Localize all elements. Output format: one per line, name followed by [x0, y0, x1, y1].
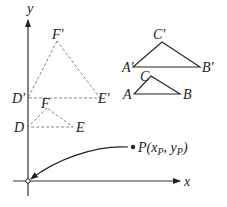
- label-p: P(xP, yP): [137, 140, 188, 157]
- label-d: D: [13, 120, 24, 135]
- triangle-abc-prime: [133, 42, 200, 67]
- triangle-def-prime: [28, 41, 100, 98]
- label-b-prime: B': [202, 60, 215, 75]
- label-e-prime: E': [97, 91, 111, 106]
- origin-point: [26, 179, 30, 183]
- label-c: C: [140, 69, 150, 84]
- label-a: A: [122, 87, 132, 102]
- x-axis-label: x: [183, 174, 191, 189]
- triangle-def: [28, 108, 73, 127]
- diagram-canvas: y x F' D' E' F D E C' A' B' C A B P(xP, …: [0, 0, 227, 207]
- label-e: E: [75, 120, 85, 135]
- label-c-prime: C': [153, 27, 166, 42]
- label-f: F: [40, 96, 50, 111]
- label-d-prime: D': [11, 91, 26, 106]
- label-b: B: [183, 87, 192, 102]
- label-a-prime: A': [121, 60, 135, 75]
- point-p: [131, 145, 135, 149]
- trajectory-curve: [31, 147, 128, 179]
- y-axis-label: y: [25, 1, 34, 16]
- label-f-prime: F': [51, 27, 65, 42]
